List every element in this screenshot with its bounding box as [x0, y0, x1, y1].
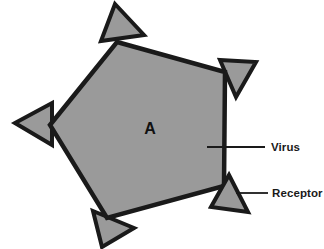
receptor-label: Receptor	[272, 187, 323, 199]
virus-core-label: A	[144, 120, 156, 137]
virus-receptor-diagram: A Virus Receptor	[0, 0, 324, 249]
virus-label: Virus	[271, 141, 300, 153]
